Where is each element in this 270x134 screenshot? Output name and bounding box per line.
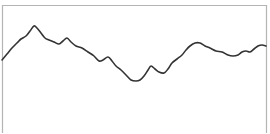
data-line: [2, 26, 266, 81]
chart-frame-border: [3, 6, 267, 134]
line-chart: [0, 0, 270, 133]
chart-canvas: [0, 0, 270, 133]
